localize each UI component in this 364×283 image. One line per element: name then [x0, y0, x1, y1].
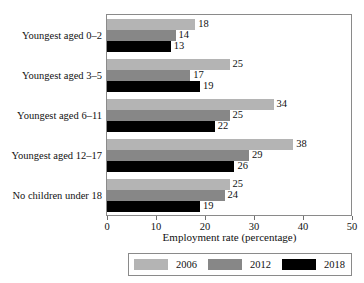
plot-area: 181413251719342522382926252419	[107, 15, 352, 215]
legend-item-2006[interactable]: 2006	[129, 254, 203, 275]
bar-2018[interactable]	[107, 161, 234, 172]
category-label: Youngest aged 6–11	[0, 110, 102, 121]
bar-group: 252419	[107, 175, 352, 215]
category-axis-labels: Youngest aged 0–2Youngest aged 3–5Younge…	[0, 15, 102, 215]
x-tick-mark	[303, 216, 304, 220]
bar-group: 181413	[107, 15, 352, 55]
bar-row[interactable]: 34	[107, 99, 352, 110]
bar-2006[interactable]	[107, 59, 230, 70]
x-tick-mark	[107, 216, 108, 220]
legend-label-2018: 2018	[324, 259, 345, 270]
bar-row[interactable]: 19	[107, 201, 352, 212]
bar-value-label: 18	[195, 19, 209, 30]
bar-2006[interactable]	[107, 179, 230, 190]
bar-value-label: 22	[215, 121, 229, 132]
bar-value-label: 17	[190, 70, 204, 81]
x-tick-mark	[352, 216, 353, 220]
bar-row[interactable]: 26	[107, 161, 352, 172]
bar-row[interactable]: 22	[107, 121, 352, 132]
x-tick-mark	[156, 216, 157, 220]
legend-swatch-2018	[282, 259, 316, 270]
bar-2018[interactable]	[107, 201, 200, 212]
category-label: Youngest aged 12–17	[0, 150, 102, 161]
category-label: Youngest aged 3–5	[0, 70, 102, 81]
bar-value-label: 25	[230, 59, 244, 70]
x-axis-title: Employment rate (percentage)	[107, 231, 352, 243]
legend-item-2018[interactable]: 2018	[277, 254, 351, 275]
bar-row[interactable]: 19	[107, 81, 352, 92]
x-tick-mark	[205, 216, 206, 220]
bar-value-label: 34	[274, 99, 288, 110]
bar-row[interactable]: 29	[107, 150, 352, 161]
bar-2012[interactable]	[107, 150, 249, 161]
bar-2012[interactable]	[107, 30, 176, 41]
legend-label-2012: 2012	[250, 259, 271, 270]
bar-group: 342522	[107, 95, 352, 135]
bar-value-label: 14	[176, 30, 190, 41]
bar-value-label: 13	[171, 41, 185, 52]
bar-2018[interactable]	[107, 41, 171, 52]
bar-2006[interactable]	[107, 99, 274, 110]
legend-swatch-2012	[208, 259, 242, 270]
bar-value-label: 29	[249, 150, 263, 161]
bar-value-label: 38	[293, 139, 307, 150]
bar-value-label: 19	[200, 81, 214, 92]
bar-2018[interactable]	[107, 81, 200, 92]
bar-row[interactable]: 17	[107, 70, 352, 81]
chart-legend: 200620122018	[128, 253, 352, 276]
bar-value-label: 19	[200, 201, 214, 212]
x-tick-mark	[254, 216, 255, 220]
bar-2006[interactable]	[107, 139, 293, 150]
bar-row[interactable]: 14	[107, 30, 352, 41]
bar-row[interactable]: 18	[107, 19, 352, 30]
bar-row[interactable]: 13	[107, 41, 352, 52]
bar-row[interactable]: 25	[107, 110, 352, 121]
bar-group: 382926	[107, 135, 352, 175]
bar-value-label: 24	[225, 190, 239, 201]
bar-group: 251719	[107, 55, 352, 95]
bar-2012[interactable]	[107, 110, 230, 121]
bar-2018[interactable]	[107, 121, 215, 132]
bar-value-label: 25	[230, 179, 244, 190]
bar-row[interactable]: 25	[107, 59, 352, 70]
category-label: Youngest aged 0–2	[0, 30, 102, 41]
bar-2012[interactable]	[107, 70, 190, 81]
legend-item-2012[interactable]: 2012	[203, 254, 277, 275]
bar-value-label: 26	[234, 161, 248, 172]
bar-row[interactable]: 38	[107, 139, 352, 150]
bar-value-label: 25	[230, 110, 244, 121]
category-label: No children under 18	[0, 190, 102, 201]
legend-label-2006: 2006	[176, 259, 197, 270]
bar-row[interactable]: 24	[107, 190, 352, 201]
legend-swatch-2006	[134, 259, 168, 270]
